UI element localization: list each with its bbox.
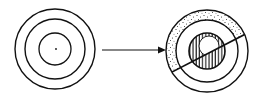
sectioned-disc-figure [150, 5, 266, 100]
outer-circle [15, 9, 95, 89]
inner-circle [39, 33, 71, 65]
diagram [0, 0, 266, 104]
arrow-icon [102, 47, 166, 54]
middle-circle [25, 19, 85, 79]
concentric-circles-figure [15, 9, 95, 89]
center-dot [55, 48, 57, 50]
diagram-canvas [0, 0, 266, 104]
